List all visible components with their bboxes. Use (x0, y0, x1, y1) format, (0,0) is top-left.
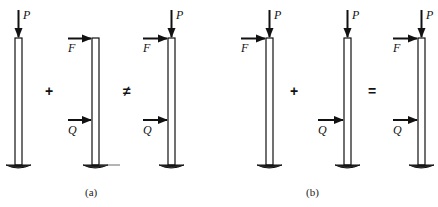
label-f: F (67, 41, 76, 55)
column-b3: P F Q (392, 8, 434, 168)
label-q: Q (393, 123, 402, 137)
operator-plus: + (290, 83, 298, 99)
label-p: P (175, 8, 184, 22)
label-q: Q (318, 123, 327, 137)
label-p: P (425, 8, 434, 22)
label-p: P (273, 8, 282, 22)
panel-a: P + F Q ≠ P F Q (a) (6, 8, 184, 199)
fixed-support-icon (159, 165, 184, 168)
caption-a: (a) (85, 186, 98, 199)
fixed-support-icon (257, 165, 282, 168)
label-f: F (392, 41, 401, 55)
label-p: P (351, 8, 360, 22)
label-q: Q (143, 123, 152, 137)
fixed-support-icon (6, 165, 31, 168)
column-bar (418, 38, 425, 165)
label-p: P (22, 8, 31, 22)
column-b1: P F (240, 8, 282, 168)
operator-plus: + (45, 83, 53, 99)
fixed-support-icon (335, 165, 360, 168)
column-a2: F Q (67, 38, 120, 168)
label-f: F (240, 41, 249, 55)
column-a3: P F Q (142, 8, 184, 168)
label-f: F (142, 41, 151, 55)
label-q: Q (68, 123, 77, 137)
panel-b: P F + P Q = P F Q (b) (240, 8, 434, 199)
fixed-support-icon (409, 165, 434, 168)
column-bar (266, 38, 273, 165)
superposition-diagram: P + F Q ≠ P F Q (a) (0, 0, 438, 207)
column-bar (344, 38, 351, 165)
caption-b: (b) (306, 186, 319, 199)
operator-equals: = (368, 83, 376, 99)
column-b2: P Q (318, 8, 360, 168)
operator-not-equal: ≠ (123, 83, 131, 99)
fixed-support-icon (83, 165, 108, 168)
column-bar (15, 38, 22, 165)
column-a1: P (6, 8, 31, 168)
diagram-canvas: P + F Q ≠ P F Q (a) (0, 0, 438, 207)
column-bar (168, 38, 175, 165)
column-bar (92, 38, 99, 165)
